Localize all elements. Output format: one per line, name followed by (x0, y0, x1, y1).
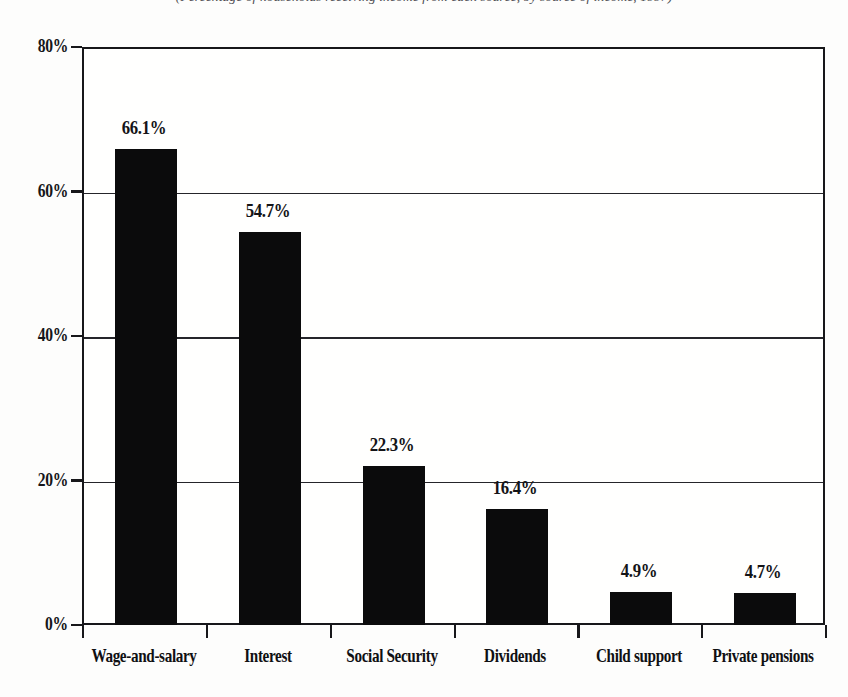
x-axis-tick-mark (701, 625, 703, 638)
bar-value-label: 66.1% (92, 117, 195, 139)
y-axis-tick-label: 0% (45, 613, 68, 635)
bar[interactable] (610, 592, 672, 625)
y-axis-tick-mark (71, 46, 82, 48)
y-axis-tick-mark (71, 479, 82, 481)
x-axis-category-label: Interest (204, 645, 332, 667)
x-axis-tick-mark (825, 625, 827, 638)
y-axis-tick-label: 80% (38, 35, 68, 57)
y-axis-tick-mark (71, 335, 82, 337)
bar[interactable] (239, 232, 301, 625)
bar-value-label: 54.7% (216, 200, 319, 222)
x-axis-category-label: Private pensions (699, 645, 827, 667)
y-axis-tick-mark (71, 190, 82, 192)
y-axis-tick-label: 40% (38, 324, 68, 346)
bar-value-label: 4.9% (588, 560, 691, 582)
x-axis-tick-mark (82, 625, 84, 638)
bar[interactable] (363, 466, 425, 625)
x-axis-tick-mark (454, 625, 456, 638)
x-axis-category-label: Social Security (328, 645, 456, 667)
chart-page: (Percentage of households receiving inco… (0, 0, 848, 697)
x-axis-tick-mark (206, 625, 208, 638)
gridline (84, 482, 823, 484)
y-axis-tick-label: 20% (38, 469, 68, 491)
y-axis-tick-label: 60% (38, 180, 68, 202)
gridline (84, 337, 823, 339)
bar-value-label: 22.3% (340, 434, 443, 456)
bar[interactable] (115, 149, 177, 625)
x-axis-tick-mark (577, 625, 579, 638)
x-axis-category-label: Child support (575, 645, 703, 667)
x-axis-category-label: Dividends (451, 645, 579, 667)
x-axis-category-label: Wage-and-salary (80, 645, 208, 667)
bar[interactable] (486, 509, 548, 625)
y-axis-tick-mark (71, 624, 82, 626)
figure-caption: (Percentage of households receiving inco… (0, 0, 848, 5)
gridline (84, 193, 823, 195)
x-axis-tick-mark (330, 625, 332, 638)
bar-value-label: 4.7% (711, 561, 814, 583)
bar[interactable] (734, 593, 796, 625)
bar-value-label: 16.4% (464, 477, 567, 499)
